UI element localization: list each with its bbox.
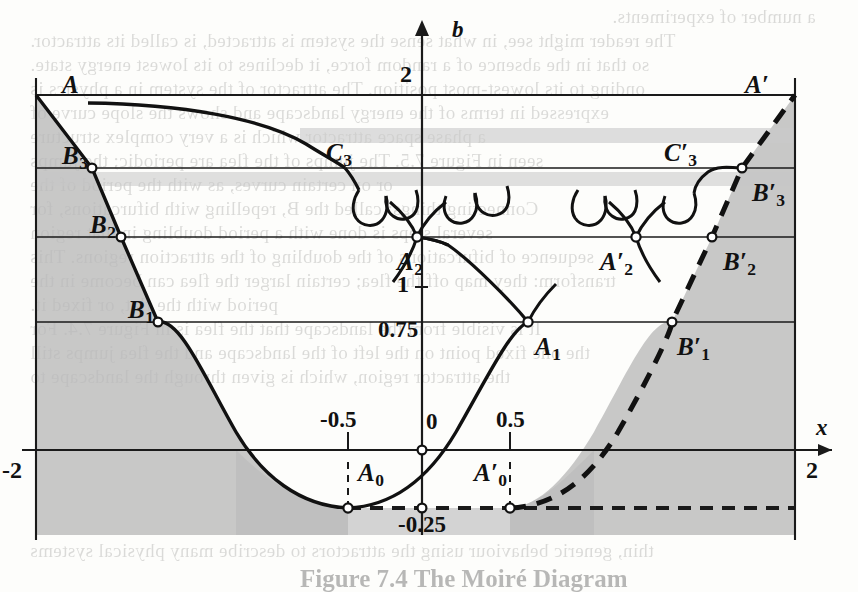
point-label-B1: B1 [128, 297, 154, 326]
point-label-A0: A0 [358, 460, 384, 489]
node-A0 [343, 503, 352, 512]
branch-A1-up [528, 284, 556, 322]
point-label-B3: B3 [62, 143, 88, 172]
fork-arc-2-left [444, 193, 477, 223]
node-B2 [117, 233, 126, 242]
point-label-Ap0: A′0 [474, 460, 507, 489]
b-tick-2: 2 [400, 62, 412, 86]
node-Ap0 [505, 503, 514, 512]
b-tick-0: 0 [426, 410, 438, 433]
inner-curve-A1-A2 [417, 237, 528, 322]
node-Bp1 [668, 318, 677, 327]
node-A1 [523, 317, 532, 326]
figure-caption: Figure 7.4 The Moiré Diagram [300, 566, 628, 591]
point-label-B2: B2 [90, 212, 116, 241]
b-tick-1: 1 [397, 272, 409, 296]
node-A2 [412, 232, 421, 241]
x-tick-05: 0.5 [496, 408, 525, 431]
x-tick-minus05: -0.5 [320, 408, 356, 431]
node-B1 [154, 318, 163, 327]
point-label-Bp1: B′1 [677, 334, 710, 363]
fork-arc-4-left [663, 193, 696, 223]
point-label-Cp3: C′3 [664, 140, 697, 169]
x-axis-label: x [816, 416, 828, 439]
b-axis-label: b [452, 18, 464, 41]
fork-arc-3-left [572, 190, 606, 225]
point-label-C3: C3 [326, 140, 352, 169]
point-label-Ap2: A′2 [600, 249, 633, 278]
node-B3 [88, 164, 97, 173]
right-escape-shading [510, 95, 795, 535]
x-tick-2: 2 [806, 458, 818, 482]
fork-arc-2-right [475, 186, 509, 215]
fork-arc-1-left [353, 190, 387, 225]
point-label-A1: A1 [535, 334, 561, 363]
node-Ap2 [631, 232, 640, 241]
point-label-Bp3: B′3 [752, 180, 785, 209]
branch-Ap2-down [636, 237, 660, 282]
node-Bp3 [738, 164, 747, 173]
fork-stem-Ap2-right [636, 202, 665, 237]
point-label-Ap: A′ [745, 72, 769, 97]
point-label-Bp2: B′2 [723, 249, 756, 278]
x-tick-minus2: -2 [2, 458, 22, 482]
b-tick-075: 0.75 [378, 318, 418, 341]
point-label-A: A [62, 72, 79, 97]
b-tick-minus025: -0.25 [398, 513, 446, 536]
node-Bp2 [708, 233, 717, 242]
node-origin [418, 446, 427, 455]
